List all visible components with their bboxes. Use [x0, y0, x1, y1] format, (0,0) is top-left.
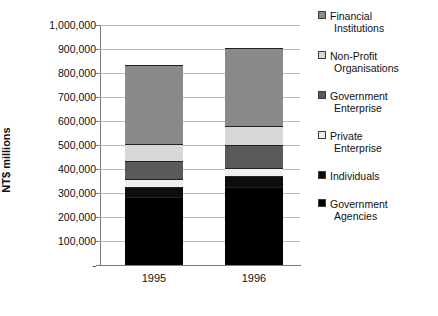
y-axis-tick-label: 500,000	[58, 139, 96, 151]
legend-item[interactable]: GovernmentAgencies	[318, 198, 436, 222]
y-axis-tick-label: 200,000	[58, 211, 96, 223]
bar-segment[interactable]	[125, 161, 183, 179]
y-axis-tick-label: 100,000	[58, 235, 96, 247]
legend-item-label-cont: Organisations	[330, 62, 436, 74]
legend-item-label-cont: Agencies	[330, 210, 436, 222]
y-axis-tick-mark	[96, 241, 100, 242]
legend-item-label-cont: Institutions	[330, 22, 436, 34]
y-axis-tick-mark	[96, 193, 100, 194]
y-axis-tick-label: 1,000,000	[49, 19, 96, 31]
y-axis-tick-label: 600,000	[58, 115, 96, 127]
legend-item-label: Individuals	[330, 170, 436, 182]
plot-area	[100, 25, 300, 265]
legend-swatch-icon	[318, 171, 326, 179]
legend-swatch-icon	[318, 11, 326, 19]
legend-item-label: Government	[330, 198, 436, 210]
legend-swatch-icon	[318, 91, 326, 99]
y-axis-tick-mark	[96, 217, 100, 218]
legend-item[interactable]: GovernmentEnterprise	[318, 90, 436, 114]
legend-item-label: Private	[330, 130, 436, 142]
legend-swatch-icon	[318, 199, 326, 207]
chart-legend: FinancialInstitutionsNon-ProfitOrganisat…	[318, 10, 436, 238]
bar-column[interactable]	[225, 25, 283, 265]
bar-column[interactable]	[125, 25, 183, 265]
bar-segment[interactable]	[125, 179, 183, 187]
y-axis-tick-labels: 1,000,000900,000800,000700,000600,000500…	[14, 0, 96, 316]
legend-item[interactable]: Non-ProfitOrganisations	[318, 50, 436, 74]
y-axis-title: NT$ millions	[0, 127, 12, 192]
legend-swatch-icon	[318, 51, 326, 59]
chart-container: NT$ millions 1,000,000900,000800,000700,…	[0, 0, 438, 316]
x-axis-tick-label: 1996	[209, 272, 299, 284]
y-axis-tick-label: 800,000	[58, 67, 96, 79]
y-axis-tick-mark	[96, 49, 100, 50]
y-axis-tick-mark	[96, 169, 100, 170]
bar-segment[interactable]	[125, 65, 183, 144]
bar-segment[interactable]	[225, 176, 283, 187]
legend-item[interactable]: FinancialInstitutions	[318, 10, 436, 34]
legend-item[interactable]: PrivateEnterprise	[318, 130, 436, 154]
legend-item-label-cont: Enterprise	[330, 102, 436, 114]
legend-item-label-cont: Enterprise	[330, 142, 436, 154]
legend-swatch-icon	[318, 131, 326, 139]
y-axis-tick-mark	[96, 121, 100, 122]
y-axis-tick-mark	[96, 25, 100, 26]
legend-item[interactable]: Individuals	[318, 170, 436, 182]
bar-segment[interactable]	[125, 197, 183, 265]
y-axis-tick-label: 900,000	[58, 43, 96, 55]
bar-segment[interactable]	[225, 145, 283, 168]
y-axis-tick-label: 700,000	[58, 91, 96, 103]
y-axis-tick-mark	[96, 73, 100, 74]
y-axis-tick-mark	[96, 97, 100, 98]
bar-segment[interactable]	[225, 187, 283, 265]
bar-segment[interactable]	[225, 48, 283, 126]
bar-segment[interactable]	[225, 168, 283, 176]
bar-segment[interactable]	[125, 144, 183, 161]
x-axis-tick-label: 1995	[109, 272, 199, 284]
y-axis-tick-mark	[96, 265, 100, 266]
bar-segment[interactable]	[125, 187, 183, 197]
bar-segment[interactable]	[225, 126, 283, 145]
y-axis-tick-label: 400,000	[58, 163, 96, 175]
x-axis-line	[100, 265, 301, 266]
y-axis-tick-label: 300,000	[58, 187, 96, 199]
legend-item-label: Government	[330, 90, 436, 102]
legend-item-label: Financial	[330, 10, 436, 22]
y-axis-tick-mark	[96, 145, 100, 146]
legend-item-label: Non-Profit	[330, 50, 436, 62]
